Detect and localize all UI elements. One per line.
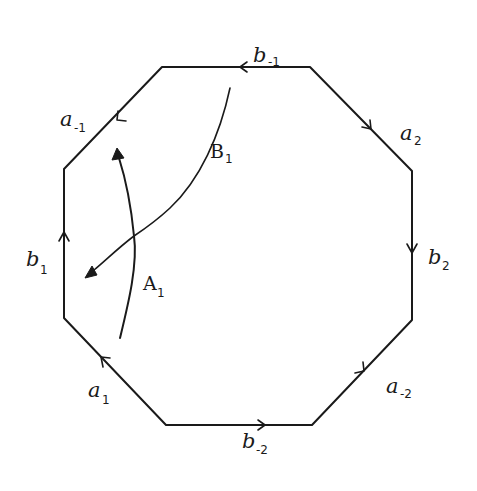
octagon-diagram: b -1 a 2 b 2 a -2 b -2 a 1 b 1 a -1 B 1 …: [0, 0, 477, 491]
svg-text:-1: -1: [268, 55, 280, 69]
label-b-2: b 2: [428, 245, 450, 273]
svg-text:B: B: [210, 140, 224, 162]
label-curve-b1: B 1: [210, 140, 233, 166]
svg-text:1: 1: [40, 263, 48, 277]
arrowhead-b1-icon: [85, 266, 97, 278]
arrow-down-left-icon: [117, 111, 126, 121]
svg-text:2: 2: [414, 134, 422, 148]
svg-text:b: b: [242, 429, 255, 453]
label-a-minus-2: a -2: [386, 374, 412, 401]
label-b-1: b 1: [26, 247, 48, 277]
label-curve-a1: A 1: [142, 272, 165, 300]
svg-text:a: a: [386, 374, 399, 398]
curve-a1: [119, 158, 135, 338]
svg-text:-1: -1: [74, 121, 86, 135]
label-a-1: a 1: [88, 378, 110, 407]
svg-text:-2: -2: [400, 387, 412, 401]
svg-text:1: 1: [157, 286, 165, 300]
svg-text:A: A: [142, 272, 157, 294]
svg-text:a: a: [400, 121, 413, 145]
label-a-2: a 2: [400, 121, 422, 148]
svg-text:-2: -2: [256, 443, 268, 457]
svg-text:b: b: [428, 245, 441, 269]
svg-text:1: 1: [225, 152, 233, 166]
svg-text:a: a: [60, 107, 73, 131]
arrowhead-a1-icon: [112, 148, 124, 160]
label-b-minus-2: b -2: [242, 429, 268, 457]
arrow-up-right-icon: [355, 362, 364, 373]
label-b-minus-1: b -1: [253, 43, 280, 69]
svg-text:a: a: [88, 378, 101, 402]
svg-text:1: 1: [102, 393, 110, 407]
svg-text:2: 2: [442, 259, 450, 273]
svg-text:b: b: [253, 43, 266, 67]
svg-text:b: b: [26, 247, 39, 271]
label-a-minus-1: a -1: [60, 107, 86, 135]
